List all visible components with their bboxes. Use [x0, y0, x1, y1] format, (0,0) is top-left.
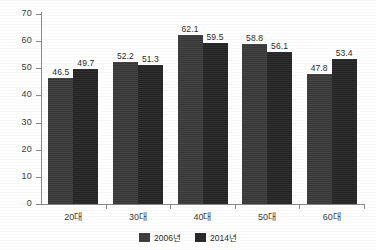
bar-40대-2014년 [203, 43, 228, 205]
bar-group [178, 14, 228, 204]
legend-swatch [139, 233, 150, 242]
bar-value-label: 62.1 [179, 24, 201, 34]
bar-value-label: 49.7 [75, 58, 97, 68]
bar-20대-2006년 [48, 78, 73, 204]
legend-item-2014년[interactable]: 2014년 [195, 231, 237, 243]
bar-value-label: 56.1 [269, 41, 291, 51]
bar-value-label: 46.5 [50, 67, 72, 77]
y-axis-tick-label: 10 [8, 171, 32, 181]
x-axis-label-60대: 60대 [299, 210, 364, 223]
x-axis-label-50대: 50대 [235, 210, 300, 223]
y-axis-tick [36, 150, 41, 151]
x-axis-tick [106, 204, 107, 209]
x-axis-tick [364, 204, 365, 209]
x-axis-label-40대: 40대 [170, 210, 235, 223]
y-axis-tick [36, 177, 41, 178]
y-axis-tick [36, 123, 41, 124]
legend-swatch [195, 233, 206, 242]
x-axis-label-20대: 20대 [41, 210, 106, 223]
bar-group [307, 14, 357, 204]
chart-legend: 2006년2014년 [0, 231, 376, 243]
y-axis-tick [36, 14, 41, 15]
bar-value-label: 59.5 [204, 32, 226, 42]
y-axis-tick [36, 68, 41, 69]
y-axis-tick [36, 204, 41, 205]
y-axis-tick-label: 20 [8, 144, 32, 154]
legend-item-2006년[interactable]: 2006년 [139, 231, 181, 243]
y-axis-line [41, 12, 42, 205]
x-axis-tick [235, 204, 236, 209]
bar-value-label: 58.8 [244, 33, 266, 43]
y-axis-tick-label: 70 [8, 8, 32, 18]
y-axis-tick-label: 0 [8, 198, 32, 208]
bar-group [113, 14, 163, 204]
bar-60대-2006년 [307, 74, 332, 204]
legend-label: 2006년 [154, 231, 181, 243]
y-axis-tick-label: 60 [8, 35, 32, 45]
x-axis-line [41, 204, 364, 205]
bar-20대-2014년 [73, 69, 98, 204]
bar-50대-2014년 [267, 52, 292, 204]
bar-value-label: 51.3 [139, 54, 161, 64]
bar-value-label: 52.2 [114, 51, 136, 61]
y-axis-tick-label: 30 [8, 117, 32, 127]
x-axis-tick [170, 204, 171, 209]
y-axis-tick [36, 41, 41, 42]
y-axis-tick-label: 50 [8, 62, 32, 72]
bar-30대-2014년 [138, 65, 163, 204]
x-axis-label-30대: 30대 [106, 210, 171, 223]
bar-60대-2014년 [332, 59, 357, 204]
y-axis-tick-label: 40 [8, 89, 32, 99]
bar-40대-2006년 [178, 35, 203, 204]
bar-value-label: 53.4 [333, 48, 355, 58]
bar-50대-2006년 [242, 44, 267, 204]
bar-chart-figure: 010203040506070 46.549.752.251.362.159.5… [0, 0, 376, 250]
y-axis-tick [36, 95, 41, 96]
bar-group [48, 14, 98, 204]
bar-value-label: 47.8 [308, 63, 330, 73]
legend-label: 2014년 [210, 231, 237, 243]
bar-30대-2006년 [113, 62, 138, 204]
x-axis-tick [299, 204, 300, 209]
